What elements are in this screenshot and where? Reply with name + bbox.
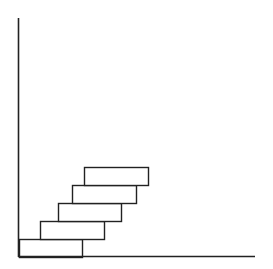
step-box-1 xyxy=(20,240,83,258)
step-box-2 xyxy=(41,222,105,240)
step-box-3 xyxy=(59,204,122,222)
staircase-diagram xyxy=(0,0,273,269)
step-box-5 xyxy=(85,168,149,186)
boxes-group xyxy=(20,168,149,258)
step-box-4 xyxy=(73,186,137,204)
